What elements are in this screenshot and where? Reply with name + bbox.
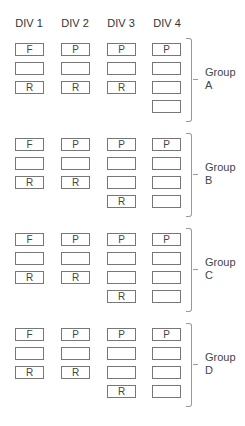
box-div1-row2 [15,252,44,265]
box-div3-row1: P [107,138,136,151]
box-div3-row2 [107,252,136,265]
box-div1-row2 [15,157,44,170]
group-label: GroupD [205,351,236,377]
group-bracket [186,323,192,407]
box-div4-row1: P [152,328,181,341]
box-div4-row2 [152,62,181,75]
header-div-1: DIV 1 [9,17,49,29]
group-bracket [186,133,192,217]
header-div-2: DIV 2 [55,17,95,29]
group-label: GroupA [205,66,236,92]
box-div1-row3: R [15,271,44,284]
bracket-tick [193,174,198,175]
box-div3-row4: R [107,385,136,398]
box-div3-row3 [107,176,136,189]
box-div3-row2 [107,62,136,75]
box-div3-row4: R [107,195,136,208]
box-div4-row3 [152,366,181,379]
box-div3-row4: R [107,290,136,303]
box-div1-row1: F [15,138,44,151]
box-div4-row3 [152,271,181,284]
box-div2-row3: R [61,176,90,189]
box-div2-row1: P [61,233,90,246]
box-div1-row3: R [15,176,44,189]
box-div4-row3 [152,176,181,189]
box-div2-row3: R [61,366,90,379]
box-div2-row2 [61,157,90,170]
box-div4-row4 [152,385,181,398]
box-div4-row3 [152,81,181,94]
box-div3-row3: R [107,81,136,94]
box-div2-row1: P [61,43,90,56]
box-div1-row2 [15,347,44,360]
box-div1-row1: F [15,233,44,246]
box-div3-row3 [107,271,136,284]
group-label: GroupB [205,161,236,187]
footer-faint [18,414,68,416]
bracket-tick [193,269,198,270]
box-div4-row4 [152,100,181,113]
bracket-tick [193,364,198,365]
box-div4-row4 [152,195,181,208]
box-div3-row2 [107,157,136,170]
box-div1-row1: F [15,43,44,56]
box-div3-row3 [107,366,136,379]
box-div4-row1: P [152,138,181,151]
group-label: GroupC [205,256,236,282]
box-div3-row1: P [107,233,136,246]
box-div2-row1: P [61,328,90,341]
box-div4-row4 [152,290,181,303]
box-div4-row2 [152,347,181,360]
box-div1-row2 [15,62,44,75]
box-div2-row1: P [61,138,90,151]
box-div3-row1: P [107,43,136,56]
header-div-3: DIV 3 [101,17,141,29]
box-div2-row3: R [61,81,90,94]
box-div4-row2 [152,252,181,265]
box-div1-row1: F [15,328,44,341]
group-bracket [186,228,192,312]
box-div3-row2 [107,347,136,360]
box-div4-row2 [152,157,181,170]
box-div3-row1: P [107,328,136,341]
box-div4-row1: P [152,43,181,56]
box-div2-row2 [61,252,90,265]
box-div2-row2 [61,347,90,360]
bracket-tick [193,79,198,80]
box-div1-row3: R [15,81,44,94]
box-div2-row2 [61,62,90,75]
header-div-4: DIV 4 [147,17,187,29]
box-div2-row3: R [61,271,90,284]
box-div4-row1: P [152,233,181,246]
box-div1-row3: R [15,366,44,379]
group-bracket [186,38,192,122]
